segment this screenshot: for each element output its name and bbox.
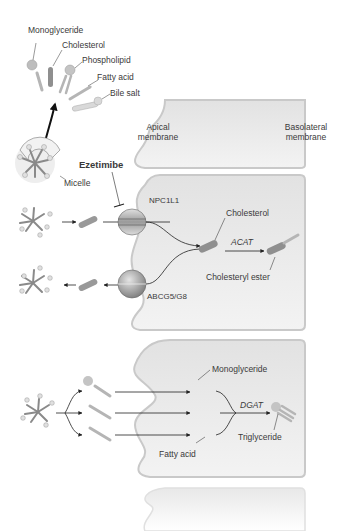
micelle-tg-icon (21, 394, 55, 428)
label-bile-salt: Bile salt (110, 88, 140, 98)
apical-line2: membrane (133, 132, 183, 142)
label-ezetimibe: Ezetimibe (79, 160, 123, 170)
apical-line1: Apical (133, 122, 183, 132)
dissociation-arrow (45, 104, 55, 142)
basolateral-line2: membrane (276, 132, 336, 142)
label-cholesterol: Cholesterol (62, 40, 105, 50)
ezetimibe-pointer (112, 172, 120, 206)
label-phospholipid: Phospholipid (82, 55, 131, 65)
label-dgat: DGAT (240, 400, 263, 410)
micelle-efflux-icon (20, 266, 53, 294)
label-npc1l1: NPC1L1 (149, 196, 179, 206)
label-monoglyceride: Monoglyceride (28, 25, 83, 35)
label-tg-monoglyceride: Monoglyceride (212, 364, 267, 374)
label-fatty-acid: Fatty acid (97, 72, 134, 82)
micelle-icon (15, 137, 66, 183)
label-cholesteryl-ester: Cholesteryl ester (206, 272, 270, 282)
label-tg-fatty-acid: Fatty acid (159, 449, 196, 459)
label-triglyceride: Triglyceride (238, 432, 282, 442)
npc1l1-transporter (118, 209, 146, 235)
label-acat: ACAT (231, 237, 253, 247)
label-intracellular-cholesterol: Cholesterol (226, 208, 269, 218)
label-basolateral-membrane: Basolateral membrane (276, 122, 336, 142)
cell-fade (144, 488, 305, 531)
basolateral-line1: Basolateral (276, 122, 336, 132)
ezetimibe-inhibit-bar (114, 204, 124, 207)
label-apical-membrane: Apical membrane (133, 122, 183, 142)
label-abcg5-g8: ABCG5/G8 (147, 292, 187, 302)
micelle-uptake-icon (20, 208, 53, 238)
label-micelle: Micelle (64, 178, 90, 188)
